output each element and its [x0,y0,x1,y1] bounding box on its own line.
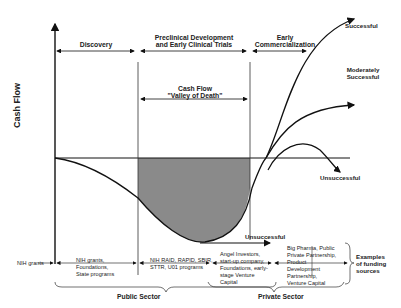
valley-line1: Cash Flow [160,85,230,92]
funding-discovery: NIH grants, Foundations, State programs [76,257,114,278]
funding-late-line: Private Partnership, [287,252,336,259]
valley-of-death-label: Cash Flow "Valley of Death" [160,85,230,99]
outcome-unsuccessful-right: Unsuccessful [320,174,360,181]
examples-line: sources [356,267,386,274]
funding-early-line: Capital [220,279,268,286]
funding-late: Big Pharma, Public Private Partnership, … [287,245,336,287]
phase-discovery-label: Discovery [72,41,120,48]
outcome-successful: Successful [345,22,378,29]
phase-preclinical-label: Preclinical Development and Early Clinic… [138,34,250,48]
private-sector-label: Private Sector [258,293,304,300]
examples-line: of funding [356,260,386,267]
funding-late-line: Product [287,259,336,266]
valley-of-death-diagram: Cash Flow Discovery Preclinical Developm… [0,0,401,308]
funding-early: Angel Investors, start-up company, Found… [220,251,268,286]
funding-discovery-line: NIH grants, [76,257,114,264]
public-sector-label: Public Sector [117,293,160,300]
outcome-unsuccessful-bottom: Unsuccessful [245,233,285,240]
phase-early-line2: Commercialization [250,41,320,48]
phase-early-line1: Early [250,34,320,41]
funding-late-line: Venture Capital [287,280,336,287]
moderate-line2: Successful [338,73,388,80]
funding-early-line: stage Venture [220,272,268,279]
funding-early-line: Angel Investors, [220,251,268,258]
funding-early-line: start-up company, [220,258,268,265]
funding-preclinical-line: NIH RAID, RAPID, SBIR, [150,257,212,264]
funding-late-line: Partnership, [287,273,336,280]
valley-line2: "Valley of Death" [160,92,230,99]
y-axis-label: Cash Flow [14,83,21,128]
funding-discovery-line: Foundations, [76,264,114,271]
examples-line: Examples [356,253,386,260]
moderate-line1: Moderately [338,66,388,73]
funding-discovery-line: State programs [76,271,114,278]
outcome-moderately-successful: Moderately Successful [338,66,388,80]
funding-early-line: Foundations, early- [220,265,268,272]
funding-preclinical: NIH RAID, RAPID, SBIR, STTR, U01 program… [150,257,212,271]
phase-preclinical-line1: Preclinical Development [138,34,250,41]
phase-early-label: Early Commercialization [250,34,320,48]
phase-preclinical-line2: and Early Clinical Trials [138,41,250,48]
funding-late-line: Big Pharma, Public [287,245,336,252]
funding-late-line: Development [287,266,336,273]
funding-preclinical-line: STTR, U01 programs [150,264,212,271]
funding-start-label: NIH grants [17,260,44,267]
funding-examples-label: Examples of funding sources [356,253,386,274]
